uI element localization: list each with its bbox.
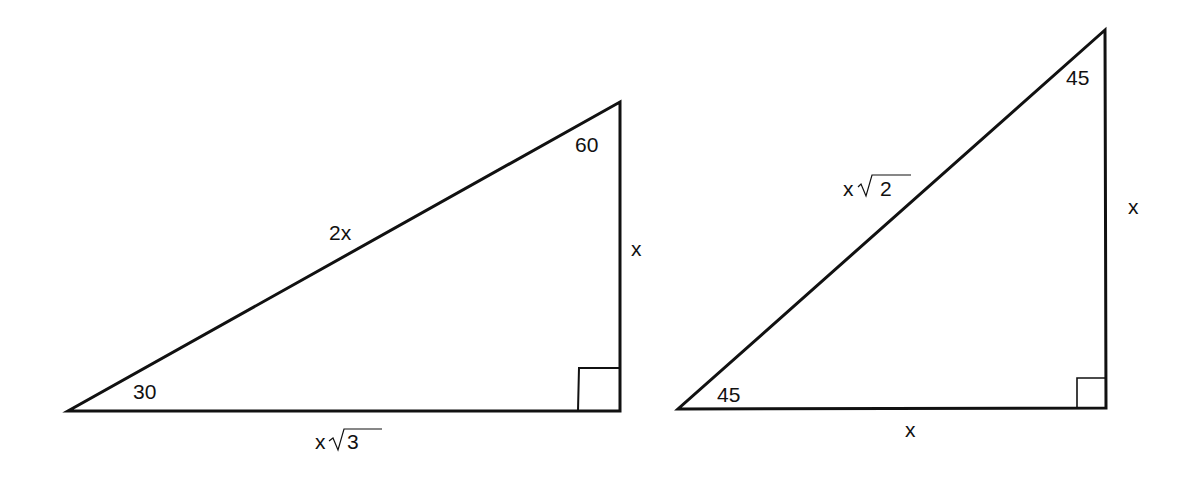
base-label-x-root-3: x 3 (315, 429, 382, 453)
angle-label-45-top: 45 (1066, 66, 1089, 89)
special-right-triangles-diagram: 30 60 2x x x 3 45 45 x x x 2 (0, 0, 1195, 479)
angle-label-45-bottom: 45 (717, 383, 740, 406)
angle-label-30: 30 (133, 380, 156, 403)
triangle-30-60-90-outline (68, 102, 620, 411)
triangle-45-45-90: 45 45 x x x 2 (678, 30, 1139, 441)
vertical-leg-label-x: x (631, 237, 642, 260)
vertical-leg-label-x: x (1128, 195, 1139, 218)
triangle-45-45-90-outline (678, 30, 1106, 409)
base-label-radicand: 3 (347, 430, 359, 453)
hypotenuse-label-x-root-2: x 2 (843, 175, 911, 200)
base-label-x: x (905, 418, 916, 441)
hypotenuse-label-radicand: 2 (880, 177, 892, 200)
angle-label-60: 60 (575, 133, 598, 156)
triangle-30-60-90: 30 60 2x x x 3 (68, 102, 642, 453)
base-label-prefix: x (315, 430, 326, 453)
right-angle-marker (1077, 378, 1106, 408)
hypotenuse-label-prefix: x (843, 177, 854, 200)
hypotenuse-label-2x: 2x (329, 221, 352, 244)
right-angle-marker (578, 368, 620, 411)
